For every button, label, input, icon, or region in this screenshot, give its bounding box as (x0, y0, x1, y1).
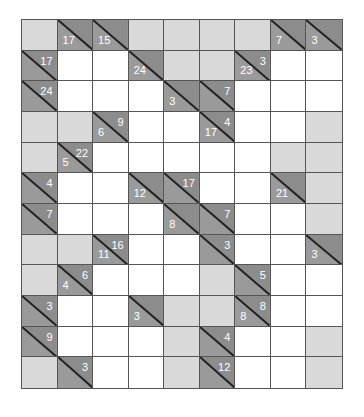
across-clue-number: 7 (224, 209, 230, 220)
down-clue-number: 23 (240, 65, 252, 76)
down-clue-number: 17 (63, 35, 75, 46)
down-clue-number: 3 (311, 35, 317, 46)
entry-cell[interactable] (58, 51, 94, 82)
entry-cell[interactable] (271, 81, 307, 112)
entry-cell[interactable] (306, 81, 342, 112)
across-clue-number: 3 (82, 362, 88, 373)
entry-cell[interactable] (306, 51, 342, 82)
clue-cell: 323 (235, 51, 271, 82)
across-clue-number: 17 (183, 178, 195, 189)
entry-cell[interactable] (129, 81, 165, 112)
entry-cell[interactable] (93, 51, 129, 82)
entry-cell[interactable] (93, 143, 129, 174)
entry-cell[interactable] (271, 204, 307, 235)
entry-cell[interactable] (129, 327, 165, 358)
across-clue-number: 3 (260, 56, 266, 67)
entry-cell[interactable] (235, 357, 271, 388)
entry-cell[interactable] (235, 112, 271, 143)
clue-cell: 12 (129, 173, 165, 204)
down-clue-number: 8 (240, 311, 246, 322)
entry-cell[interactable] (129, 112, 165, 143)
blank-block-cell (164, 327, 200, 358)
blank-block-cell (22, 357, 58, 388)
entry-cell[interactable] (93, 81, 129, 112)
entry-cell[interactable] (271, 51, 307, 82)
clue-cell: 1611 (93, 235, 129, 266)
entry-cell[interactable] (93, 204, 129, 235)
blank-block-cell (200, 265, 236, 296)
entry-cell[interactable] (129, 265, 165, 296)
entry-cell[interactable] (93, 296, 129, 327)
entry-cell[interactable] (200, 143, 236, 174)
entry-cell[interactable] (58, 81, 94, 112)
entry-cell[interactable] (235, 235, 271, 266)
down-clue-number: 3 (169, 96, 175, 107)
entry-cell[interactable] (271, 357, 307, 388)
entry-cell[interactable] (129, 204, 165, 235)
entry-cell[interactable] (271, 327, 307, 358)
entry-cell[interactable] (58, 204, 94, 235)
blank-block-cell (306, 357, 342, 388)
entry-cell[interactable] (93, 327, 129, 358)
blank-block-cell (306, 112, 342, 143)
entry-cell[interactable] (271, 112, 307, 143)
clue-cell: 24 (22, 81, 58, 112)
entry-cell[interactable] (271, 265, 307, 296)
across-clue-number: 17 (40, 56, 52, 67)
across-clue-number: 8 (260, 301, 266, 312)
across-clue-number: 4 (46, 178, 52, 189)
clue-cell: 21 (271, 173, 307, 204)
entry-cell[interactable] (93, 357, 129, 388)
blank-block-cell (306, 173, 342, 204)
entry-cell[interactable] (271, 235, 307, 266)
entry-cell[interactable] (164, 143, 200, 174)
entry-cell[interactable] (58, 327, 94, 358)
entry-cell[interactable] (129, 235, 165, 266)
entry-cell[interactable] (235, 173, 271, 204)
entry-cell[interactable] (306, 296, 342, 327)
clue-cell: 3 (306, 235, 342, 266)
entry-cell[interactable] (200, 173, 236, 204)
entry-cell[interactable] (58, 173, 94, 204)
entry-cell[interactable] (93, 265, 129, 296)
clue-cell: 15 (93, 20, 129, 51)
clue-cell: 3 (200, 235, 236, 266)
entry-cell[interactable] (129, 143, 165, 174)
across-clue-number: 24 (40, 86, 52, 97)
down-clue-number: 3 (311, 249, 317, 260)
blank-block-cell (306, 204, 342, 235)
across-clue-number: 4 (224, 332, 230, 343)
clue-cell: 7 (200, 81, 236, 112)
entry-cell[interactable] (235, 81, 271, 112)
entry-cell[interactable] (235, 143, 271, 174)
across-clue-number: 7 (224, 86, 230, 97)
entry-cell[interactable] (271, 296, 307, 327)
across-clue-number: 4 (224, 117, 230, 128)
entry-cell[interactable] (235, 204, 271, 235)
entry-cell[interactable] (306, 265, 342, 296)
clue-cell: 225 (58, 143, 94, 174)
entry-cell[interactable] (93, 173, 129, 204)
across-clue-number: 22 (76, 148, 88, 159)
down-clue-number: 24 (134, 65, 146, 76)
blank-block-cell (22, 112, 58, 143)
across-clue-number: 5 (260, 270, 266, 281)
entry-cell[interactable] (164, 235, 200, 266)
entry-cell[interactable] (164, 112, 200, 143)
down-clue-number: 12 (134, 188, 146, 199)
entry-cell[interactable] (164, 265, 200, 296)
clue-cell: 24 (129, 51, 165, 82)
across-clue-number: 7 (46, 209, 52, 220)
clue-cell: 3 (306, 20, 342, 51)
entry-cell[interactable] (235, 327, 271, 358)
down-clue-number: 15 (98, 35, 110, 46)
kakuro-grid: 1715731724323243796417225412172178716113… (21, 19, 343, 389)
down-clue-number: 3 (134, 311, 140, 322)
entry-cell[interactable] (58, 296, 94, 327)
clue-cell: 417 (200, 112, 236, 143)
clue-cell: 12 (200, 357, 236, 388)
blank-block-cell (129, 20, 165, 51)
clue-cell: 8 (164, 204, 200, 235)
blank-block-cell (271, 143, 307, 174)
entry-cell[interactable] (129, 357, 165, 388)
